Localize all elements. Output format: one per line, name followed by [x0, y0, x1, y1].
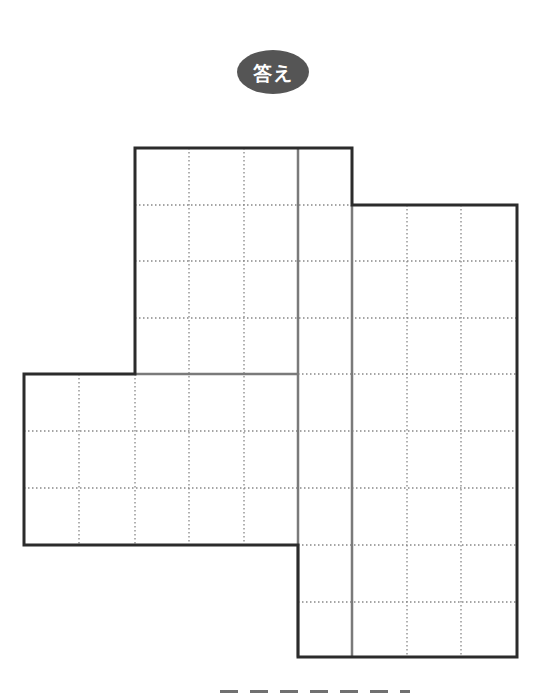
dotted-gridlines: [24, 148, 517, 657]
figure-outline: [24, 148, 517, 657]
clipped-caption: [220, 686, 410, 694]
caption-text: [220, 690, 410, 693]
